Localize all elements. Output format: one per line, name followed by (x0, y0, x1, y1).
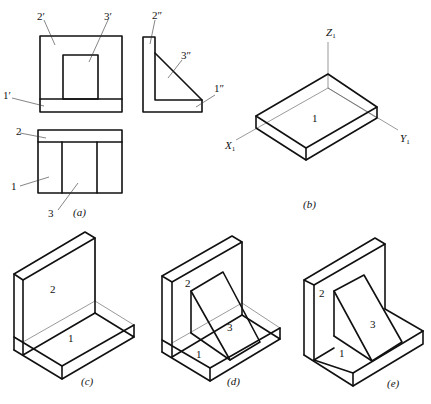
leader-2prime (44, 20, 55, 45)
c-base-right (95, 313, 134, 337)
d-rib-slope-face (191, 272, 260, 360)
label-1prime: 1′ (3, 89, 11, 101)
d-hidden-base-back (242, 303, 280, 328)
leader-top-1 (20, 177, 49, 186)
c-hidden-base-back (95, 301, 134, 325)
drawing-canvas: 2′ 3′ 1′ 2″ 3″ 1″ 2 1 3 (a) (0, 0, 431, 404)
e-wall-top (304, 238, 385, 285)
label-3prime: 3′ (104, 10, 112, 22)
caption-a: (a) (73, 206, 86, 219)
e-label-2: 2 (319, 287, 325, 299)
e-base-bottom-edge (304, 331, 423, 386)
front-view: 2′ 3′ 1′ (3, 10, 122, 112)
c-wall-top (14, 232, 95, 280)
front-rib-rect (63, 55, 98, 99)
c-label-1: 1 (68, 332, 74, 344)
side-rib-hypotenuse (155, 53, 202, 100)
caption-e: (e) (387, 377, 400, 390)
d-label-2: 2 (185, 277, 191, 289)
label-top-1: 1 (11, 180, 17, 192)
caption-c: (c) (81, 375, 94, 388)
c-base-top-edge (14, 325, 134, 366)
e-label-1: 1 (339, 347, 345, 359)
top-outer-rect (38, 130, 122, 193)
side-L-outline (143, 37, 202, 112)
label-plate-1: 1 (312, 112, 318, 124)
c-hidden-wall-base (23, 301, 95, 342)
c-label-2: 2 (50, 283, 56, 295)
caption-d: (d) (227, 375, 240, 388)
e-label-3: 3 (370, 318, 376, 330)
panel-d-with-rib-transparent: 2 3 1 (d) (162, 236, 280, 388)
top-view: 2 1 3 (11, 125, 122, 219)
c-base-bottom-edge (14, 337, 134, 379)
d-label-3: 3 (227, 321, 233, 333)
label-top-2: 2 (16, 125, 22, 137)
label-top-3: 3 (48, 207, 54, 219)
leader-top-2 (20, 133, 46, 138)
label-1dprime: 1″ (214, 82, 224, 94)
panel-c-wall-and-base: 2 1 (c) (14, 232, 134, 388)
caption-b: (b) (303, 198, 316, 211)
label-y1: Y1 (400, 132, 410, 146)
d-wall-top (162, 236, 242, 282)
d-label-1: 1 (196, 348, 202, 360)
label-2dprime: 2″ (152, 9, 162, 21)
plate-top-face (256, 74, 377, 148)
front-outer-rect (40, 36, 122, 112)
label-x1: X1 (224, 139, 236, 153)
label-2prime: 2′ (37, 10, 45, 22)
e-base-inner-left (314, 348, 334, 360)
label-z1: Z1 (326, 26, 336, 40)
e-base-top-edge (314, 331, 423, 373)
label-3dprime: 3″ (181, 49, 191, 61)
e-base-back-right (385, 309, 423, 331)
panel-a-three-views: 2′ 3′ 1′ 2″ 3″ 1″ 2 1 3 (a) (3, 9, 224, 219)
panel-b-base-plate: 1 Z1 X1 Y1 (b) (224, 26, 410, 211)
panel-e-final-solid: 2 3 1 (e) (304, 238, 423, 390)
side-view: 2″ 3″ 1″ (143, 9, 224, 112)
